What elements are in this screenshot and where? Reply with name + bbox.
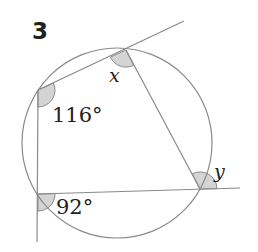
angle-92-marker (38, 194, 55, 212)
problem-number: 3 (32, 18, 48, 44)
diagram-canvas: 3 x 116° y 92° (0, 0, 258, 252)
side-bc-extended (37, 90, 38, 242)
angle-116-label: 116° (52, 103, 103, 127)
angle-x-label: x (109, 64, 120, 86)
side-cd-extended (38, 188, 240, 194)
side-ad (126, 50, 200, 189)
angle-92-label: 92° (56, 195, 93, 219)
angle-y-label: y (213, 160, 225, 182)
angle-markers (38, 50, 217, 211)
